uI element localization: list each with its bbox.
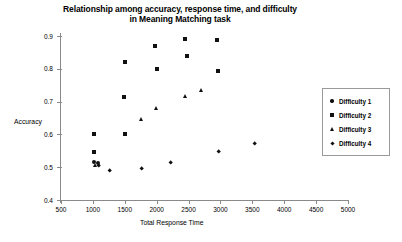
- data-point-triangle: [154, 106, 158, 110]
- data-point-triangle: [139, 117, 143, 121]
- data-point-triangle: [123, 132, 127, 136]
- y-tick-label: 0.4: [27, 197, 53, 204]
- x-tick-label: 4000: [269, 206, 299, 213]
- x-tick-label: 1500: [110, 206, 140, 213]
- chart-title-line-1: Relationship among accuracy, response ti…: [0, 4, 360, 14]
- chart-title: Relationship among accuracy, response ti…: [0, 4, 360, 24]
- x-tick-label: 1000: [78, 206, 108, 213]
- y-tick-label: 0.5: [27, 164, 53, 171]
- data-point-diamond: [107, 168, 112, 173]
- data-point-square: [122, 95, 126, 99]
- x-tick-label: 3000: [205, 206, 235, 213]
- square-marker-icon: [328, 111, 336, 119]
- x-tick-mark: [252, 200, 253, 204]
- x-tick-mark: [316, 200, 317, 204]
- data-point-diamond: [252, 141, 257, 146]
- x-tick-mark: [220, 200, 221, 204]
- legend-item-1[interactable]: Difficulty 1: [323, 94, 389, 108]
- data-point-square: [123, 60, 127, 64]
- data-point-square: [153, 44, 157, 48]
- y-tick-label: 0.6: [27, 131, 53, 138]
- x-axis-title: Total Response Time: [140, 219, 203, 226]
- data-point-diamond: [168, 160, 173, 165]
- data-point-square: [92, 132, 96, 136]
- x-tick-label: 5000: [333, 206, 363, 213]
- x-tick-mark: [125, 200, 126, 204]
- y-axis-title: Accuracy: [14, 118, 42, 125]
- legend-item-4[interactable]: Difficulty 4: [323, 136, 389, 150]
- data-point-square: [216, 69, 220, 73]
- data-point-diamond: [96, 163, 101, 168]
- legend-item-label: Difficulty 1: [339, 98, 371, 105]
- data-point-triangle: [183, 94, 187, 98]
- x-tick-mark: [189, 200, 190, 204]
- x-tick-label: 500: [46, 206, 76, 213]
- circle-marker-icon: [328, 97, 336, 105]
- chart-title-line-2: in Meaning Matching task: [0, 14, 360, 24]
- legend-item-2[interactable]: Difficulty 2: [323, 108, 389, 122]
- data-point-square: [155, 67, 159, 71]
- x-tick-mark: [284, 200, 285, 204]
- data-point-triangle: [199, 88, 203, 92]
- x-tick-mark: [93, 200, 94, 204]
- x-tick-label: 4500: [301, 206, 331, 213]
- x-tick-mark: [61, 200, 62, 204]
- x-tick-mark: [157, 200, 158, 204]
- y-tick-label: 0.9: [27, 33, 53, 40]
- triangle-marker-icon: [328, 125, 336, 133]
- x-tick-mark: [348, 200, 349, 204]
- x-tick-label: 2000: [142, 206, 172, 213]
- data-point-diamond: [217, 149, 222, 154]
- data-point-square: [183, 37, 187, 41]
- chart-legend: Difficulty 1Difficulty 2Difficulty 3Diff…: [322, 88, 390, 156]
- data-point-diamond: [139, 166, 144, 171]
- scatter-chart: Relationship among accuracy, response ti…: [0, 0, 402, 242]
- data-point-square: [215, 38, 219, 42]
- y-tick-label: 0.7: [27, 98, 53, 105]
- y-tick-label: 0.8: [27, 65, 53, 72]
- plot-area: [61, 36, 348, 200]
- legend-item-label: Difficulty 4: [339, 140, 371, 147]
- legend-item-3[interactable]: Difficulty 3: [323, 122, 389, 136]
- legend-item-label: Difficulty 2: [339, 112, 371, 119]
- x-axis-line: [60, 200, 349, 201]
- legend-item-label: Difficulty 3: [339, 126, 371, 133]
- x-tick-label: 3500: [237, 206, 267, 213]
- data-point-square: [92, 150, 96, 154]
- data-point-square: [185, 54, 189, 58]
- x-tick-label: 2500: [174, 206, 204, 213]
- diamond-marker-icon: [328, 139, 336, 147]
